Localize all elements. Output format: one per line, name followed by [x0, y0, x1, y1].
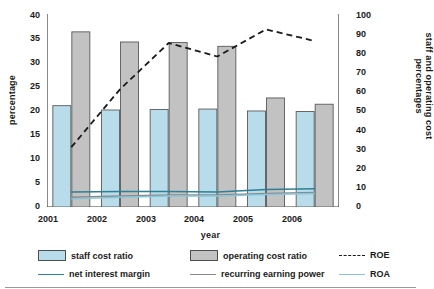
legend-label-staff-cost-ratio: staff cost ratio	[71, 251, 133, 261]
y-tick-left-10: 10	[14, 153, 40, 163]
x-tick-2005: 2005	[218, 214, 268, 224]
x-tick-2006: 2006	[267, 214, 317, 224]
legend-swatch-operating-cost-ratio	[190, 250, 218, 261]
chart-canvas	[47, 14, 339, 207]
plot-area	[47, 14, 339, 207]
y-axis-label-left: percentage	[7, 60, 17, 140]
legend-item-net-interest-margin[interactable]: net interest margin	[38, 269, 150, 279]
x-axis-label: year	[0, 230, 421, 240]
y-tick-right-50: 50	[356, 105, 382, 115]
y-tick-left-20: 20	[14, 105, 40, 115]
legend-item-recurring-earning-power[interactable]: recurring earning power	[190, 269, 325, 279]
y-tick-right-100: 100	[356, 10, 382, 20]
legend-item-roe[interactable]: ROE	[339, 250, 390, 260]
x-tick-2001: 2001	[23, 214, 73, 224]
x-tick-2002: 2002	[72, 214, 122, 224]
y-tick-right-10: 10	[356, 182, 382, 192]
y-tick-right-40: 40	[356, 125, 382, 135]
legend-item-roa[interactable]: ROA	[339, 269, 390, 279]
legend-label-net-interest-margin: net interest margin	[69, 269, 150, 279]
legend-item-operating-cost-ratio[interactable]: operating cost ratio	[190, 250, 307, 261]
y-tick-left-5: 5	[14, 177, 40, 187]
legend-label-operating-cost-ratio: operating cost ratio	[223, 251, 307, 261]
y-tick-right-80: 80	[356, 48, 382, 58]
y-tick-left-35: 35	[14, 33, 40, 43]
y-tick-right-70: 70	[356, 67, 382, 77]
legend-swatch-net-interest-margin	[38, 274, 64, 275]
y-tick-right-60: 60	[356, 86, 382, 96]
y-tick-right-20: 20	[356, 163, 382, 173]
legend-label-roe: ROE	[370, 250, 390, 260]
legend-label-recurring-earning-power: recurring earning power	[221, 269, 325, 279]
x-tick-2004: 2004	[169, 214, 219, 224]
y-tick-left-25: 25	[14, 81, 40, 91]
legend-swatch-staff-cost-ratio	[38, 250, 66, 261]
y-tick-left-15: 15	[14, 129, 40, 139]
y-tick-right-30: 30	[356, 144, 382, 154]
y-tick-left-30: 30	[14, 57, 40, 67]
chart-legend: staff cost ratio operating cost ratio RO…	[0, 247, 421, 289]
y-tick-left-40: 40	[14, 10, 40, 20]
legend-label-roa: ROA	[370, 269, 390, 279]
y-tick-right-90: 90	[356, 29, 382, 39]
legend-swatch-roa	[339, 274, 365, 275]
legend-swatch-roe	[339, 255, 365, 256]
x-tick-2003: 2003	[121, 214, 171, 224]
legend-item-staff-cost-ratio[interactable]: staff cost ratio	[38, 250, 133, 261]
legend-swatch-recurring-earning-power	[190, 274, 216, 275]
y-tick-left-0: 0	[14, 201, 40, 211]
y-axis-label-right: staff and operating cost percentages	[414, 11, 434, 161]
legend-divider	[5, 287, 416, 288]
y-tick-right-0: 0	[356, 201, 382, 211]
